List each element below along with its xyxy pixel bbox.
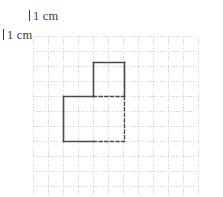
grid-lines	[34, 37, 199, 197]
measurement-figure: 1 cm 1 cm	[0, 0, 223, 196]
grid-and-shape-canvas	[0, 0, 223, 196]
